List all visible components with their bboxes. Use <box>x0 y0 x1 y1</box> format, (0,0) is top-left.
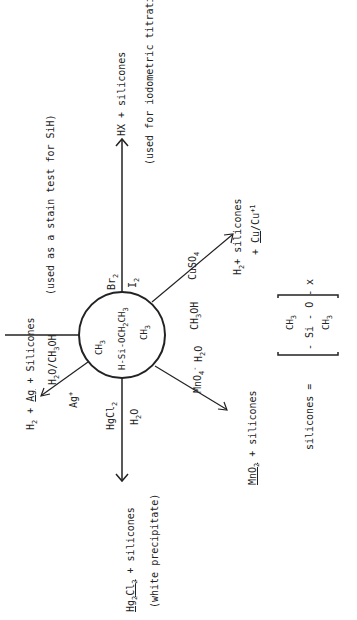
halogen-reagent-br: Br2 <box>107 274 120 290</box>
silver-note: (used as a stain test for SiH) <box>46 114 56 295</box>
silicones-top-group: CH3 <box>286 315 298 330</box>
mercury-note: (white precipitate) <box>150 494 160 608</box>
compound-top-methyl: CH3 <box>95 340 107 355</box>
silicones-label: silicones = <box>305 384 315 450</box>
silicones-repeat: x <box>305 279 315 285</box>
compound-main: H-Si-OCH2CH3 <box>118 307 130 370</box>
compound-bottom-methyl: CH3 <box>140 325 152 340</box>
silver-solvent: H2O/CH3OH <box>48 334 61 385</box>
copper-product2: + Cu/Cu+1 <box>250 204 261 255</box>
silver-reagent: Ag+ <box>68 392 79 408</box>
halogen-reagent-i: I2 <box>128 278 141 288</box>
reaction-scheme: CH3 H-Si-OCH2CH3 CH3 H2 + Ag + Silicones… <box>0 0 357 620</box>
permanganate-solvent: H2O <box>194 346 207 362</box>
halogen-product: HX + silicones <box>117 52 127 136</box>
mercury-reagent: HgCl2 <box>106 402 119 430</box>
permanganate-product: MnO2 + silicones <box>248 390 261 485</box>
mercury-product: Hg2Cl2 + silicones <box>126 507 139 612</box>
silicones-bottom-group: CH3 <box>322 315 334 330</box>
mercury-solvent: H2O <box>130 409 143 425</box>
permanganate-reagent: MnO4- <box>192 367 206 394</box>
copper-product: H2+ silicones <box>233 199 246 275</box>
silver-product: H2 + Ag + Silicones <box>26 317 39 430</box>
halogen-note: (used for iodometric titration) <box>145 0 155 165</box>
silicones-chain: - Si - O - <box>305 290 315 350</box>
copper-solvent: CH3OH <box>190 302 203 330</box>
copper-reagent: CuSO4 <box>188 252 201 280</box>
